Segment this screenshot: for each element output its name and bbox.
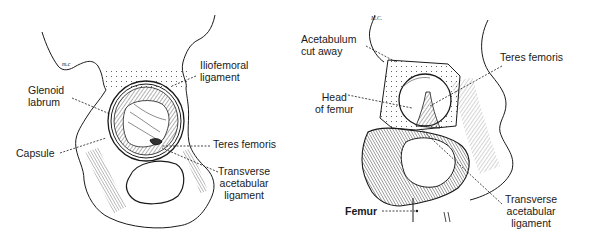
- label-text: acetabular: [505, 205, 557, 217]
- label-transverse-acetabular-ligament-right: Transverse acetabular ligament: [505, 193, 557, 229]
- label-glenoid-labrum: Glenoid labrum: [28, 84, 64, 108]
- label-text: ligament: [505, 217, 557, 229]
- label-head-of-femur: Head of femur: [315, 91, 354, 115]
- label-text: Transverse: [505, 193, 557, 205]
- label-femur: Femur: [345, 205, 377, 217]
- label-text: labrum: [28, 96, 64, 108]
- svg-text:M.C.: M.C.: [370, 15, 382, 21]
- label-capsule: Capsule: [16, 147, 55, 159]
- label-text: Iliofemoral: [200, 59, 248, 71]
- label-text: Transverse: [218, 165, 270, 177]
- label-transverse-acetabular-ligament-left: Transverse acetabular ligament: [218, 165, 270, 201]
- label-teres-femoris-right: Teres femoris: [500, 51, 563, 63]
- label-text: Head: [315, 91, 354, 103]
- label-text: Teres femoris: [213, 138, 276, 150]
- label-text: of femur: [315, 103, 354, 115]
- label-text: Femur: [345, 205, 377, 217]
- label-text: cut away: [301, 45, 356, 57]
- label-text: ligament: [200, 71, 248, 83]
- right-hip-joint-drawing: M.C.: [362, 15, 513, 222]
- label-text: acetabular: [218, 177, 270, 189]
- left-hip-socket-drawing: m.c: [42, 15, 215, 228]
- label-acetabulum-cut-away: Acetabulum cut away: [301, 33, 356, 57]
- label-text: Acetabulum: [301, 33, 356, 45]
- femur-pointer-dot: [416, 210, 418, 212]
- label-iliofemoral-ligament: Iliofemoral ligament: [200, 59, 248, 83]
- svg-text:m.c: m.c: [62, 61, 71, 67]
- label-text: ligament: [218, 189, 270, 201]
- label-text: Capsule: [16, 147, 55, 159]
- label-teres-femoris-left: Teres femoris: [213, 138, 276, 150]
- label-text: Teres femoris: [500, 51, 563, 63]
- label-text: Glenoid: [28, 84, 64, 96]
